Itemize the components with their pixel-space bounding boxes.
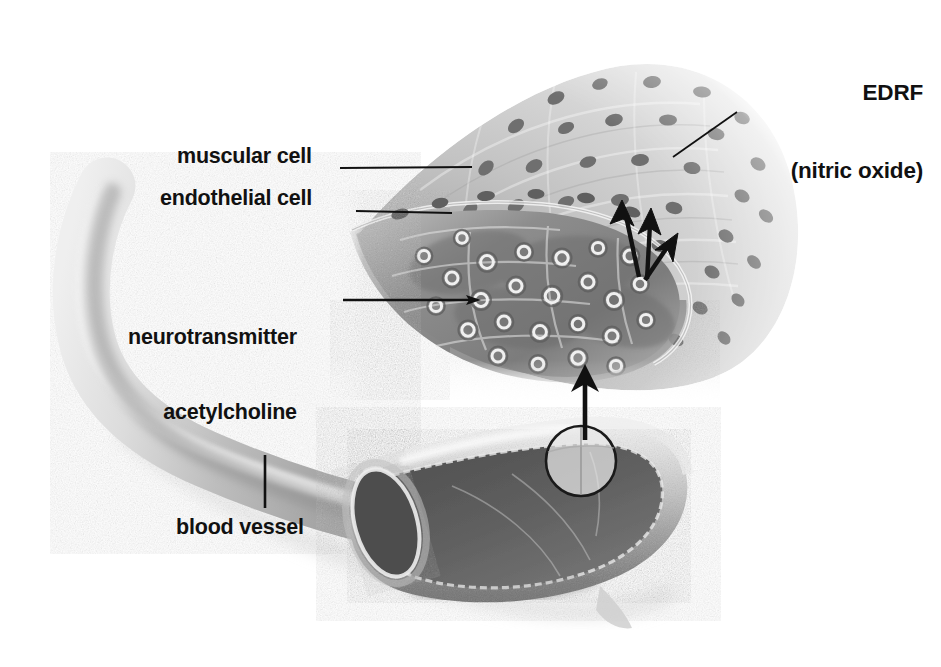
label-muscular-cell: muscular cell — [177, 144, 312, 169]
label-neurotransmitter-acetylcholine: neurotransmitter acetylcholine — [128, 275, 297, 475]
label-neurotransmitter-line2: acetylcholine — [128, 400, 297, 425]
figure-root: EDRF (nitric oxide) muscular cell endoth… — [0, 0, 941, 667]
label-edrf-line2: (nitric oxide) — [560, 158, 923, 184]
muscular-cell-leader — [340, 167, 472, 168]
label-edrf: EDRF (nitric oxide) — [560, 28, 923, 237]
label-edrf-line1: EDRF — [560, 80, 923, 106]
label-neurotransmitter-line1: neurotransmitter — [128, 325, 297, 350]
label-blood-vessel: blood vessel — [176, 515, 304, 540]
label-endothelial-cell: endothelial cell — [160, 186, 312, 211]
magnification-circle — [546, 426, 616, 496]
